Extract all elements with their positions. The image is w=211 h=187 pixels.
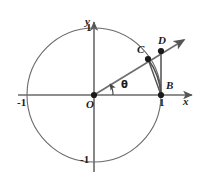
label-point-d: D [158, 35, 166, 46]
point-c-dot [145, 56, 151, 62]
point-d-dot [158, 48, 164, 54]
unit-circle-figure: x y 1 -1 -1 1 O B C D θ [0, 0, 211, 187]
tick-label-y-positive-one: 1 [86, 22, 92, 33]
label-point-c: C [137, 44, 144, 55]
label-angle-theta: θ [121, 80, 128, 90]
tick-label-x-positive-one: 1 [159, 97, 165, 108]
tick-label-x-negative-one: -1 [17, 97, 26, 108]
label-point-b: B [166, 80, 173, 91]
angle-arc-theta [110, 84, 113, 95]
figure-canvas [0, 0, 211, 187]
label-origin-o: O [86, 99, 94, 110]
x-axis-label: x [183, 96, 189, 107]
tick-label-y-negative-one: -1 [80, 154, 89, 165]
